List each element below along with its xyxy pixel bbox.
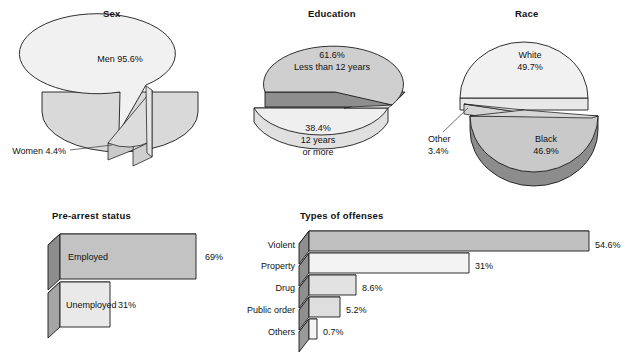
bar-public-order-front-face [309, 297, 340, 317]
bar-others-label: Others [268, 327, 296, 337]
bar-unemployed-label: Unemployed [66, 300, 117, 310]
bar-drug-value: 8.6% [362, 283, 383, 293]
chart-prearrest: Pre-arrest status Employed 69% Unemploye… [0, 200, 255, 353]
pie-sex-men-label: Men 95.6% [97, 54, 143, 64]
bar-employed-value: 69% [205, 252, 223, 262]
bar-offenses-graphic: Violent 54.6% Property 31% Drug 8.6% Pub… [255, 200, 629, 353]
bar-public-order-label: Public order [247, 305, 295, 315]
pie-race-white-value: 49.7% [517, 62, 543, 72]
pie-race-other-label: Other [428, 134, 451, 144]
bar-employed-label: Employed [68, 252, 108, 262]
bar-property-front-face [309, 253, 469, 273]
bar-property-value: 31% [475, 261, 493, 271]
bar-drug-front-face [309, 275, 356, 295]
chart-title-offenses: Types of offenses [300, 210, 383, 221]
bar-employed-side-face [48, 234, 60, 290]
pie-education-graphic: 61.6% Less than 12 years 38.4% 12 years … [240, 0, 450, 200]
bar-prearrest-graphic: Employed 69% Unemployed 31% [0, 200, 255, 353]
pie-edu-upper-label: Less than 12 years [294, 62, 371, 72]
pie-race-other-leader-line [443, 108, 468, 132]
bar-property-label: Property [261, 261, 296, 271]
bar-others-value: 0.7% [323, 327, 344, 337]
pie-edu-lower-label: 12 years [301, 135, 336, 145]
bar-violent-front-face [309, 231, 589, 251]
bar-violent-label: Violent [268, 240, 296, 250]
pie-race-black-label: Black [535, 134, 558, 144]
bar-unemployed-side-face [48, 282, 60, 338]
bar-public-order-value: 5.2% [346, 305, 367, 315]
chart-title-race: Race [515, 8, 539, 19]
chart-education: Education 61.6% Less than 12 years 38.4%… [240, 0, 450, 200]
pie-edu-lower-value: 38.4% [305, 123, 331, 133]
pie-sex-graphic: Men 95.6% Women 4.4% [0, 0, 240, 200]
pie-race-black-value: 46.9% [533, 146, 559, 156]
chart-title-education: Education [308, 8, 356, 19]
pie-race-other-value: 3.4% [428, 146, 449, 156]
pie-race-white-label: White [518, 50, 541, 60]
chart-race: Race White 49.7% Black 46.9% Other 3.4% [420, 0, 629, 200]
bar-others-front-face [309, 319, 317, 339]
chart-sex: Sex Men 95.6% Women 4.4% [0, 0, 240, 200]
pie-race-graphic: White 49.7% Black 46.9% Other 3.4% [420, 0, 629, 200]
chart-title-prearrest: Pre-arrest status [52, 210, 131, 221]
chart-title-sex: Sex [103, 8, 121, 19]
pie-edu-upper-value: 61.6% [319, 50, 345, 60]
pie-sex-women-edge [146, 86, 152, 157]
pie-edu-lower-label2: or more [302, 147, 333, 157]
bar-violent-value: 54.6% [595, 240, 621, 250]
pie-sex-women-label: Women 4.4% [12, 146, 66, 156]
chart-offenses: Types of offenses Violent 54.6% Property… [255, 200, 629, 353]
bar-drug-label: Drug [275, 283, 295, 293]
bar-unemployed-value: 31% [118, 300, 136, 310]
